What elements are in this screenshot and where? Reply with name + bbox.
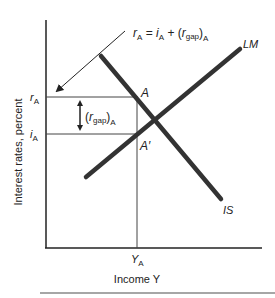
- gap-label: (rgap)A: [85, 110, 116, 127]
- is-label: IS: [223, 204, 234, 216]
- islm-diagram: rA = iA + (rgap)A (rgap)A LM IS A A′ rA …: [0, 0, 275, 298]
- y-axis-title: Interest rates, percent: [12, 99, 24, 206]
- formula-pointer-arrow-icon: [57, 31, 125, 91]
- point-a-prime-label: A′: [139, 139, 151, 153]
- x-axis-title: Income Y: [114, 273, 161, 285]
- i-a-tick-label: iA: [30, 128, 38, 143]
- formula-label: rA = iA + (rgap)A: [133, 26, 209, 43]
- lm-label: LM: [243, 38, 259, 50]
- r-a-tick-label: rA: [30, 91, 40, 106]
- y-a-tick-label: YA: [131, 253, 144, 268]
- point-a-label: A: [140, 86, 149, 100]
